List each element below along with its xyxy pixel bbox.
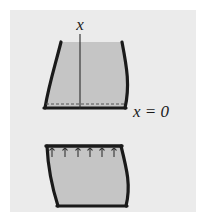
lower-curvilinear-element bbox=[47, 146, 128, 206]
lower-element-group bbox=[46, 146, 128, 206]
datum-label-x-equals-zero: x = 0 bbox=[132, 102, 170, 121]
figure-diagram: x x = 0 bbox=[0, 0, 207, 219]
x-axis-label: x bbox=[75, 15, 84, 34]
figure-container: x x = 0 bbox=[0, 0, 207, 219]
